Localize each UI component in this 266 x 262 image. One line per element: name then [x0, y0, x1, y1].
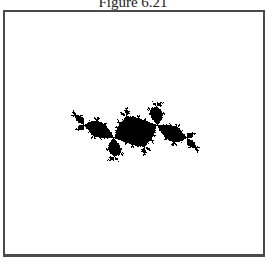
julia-set-fractal: [5, 12, 263, 254]
figure-frame: [3, 10, 265, 257]
figure-title: Figure 6.21: [0, 0, 266, 10]
